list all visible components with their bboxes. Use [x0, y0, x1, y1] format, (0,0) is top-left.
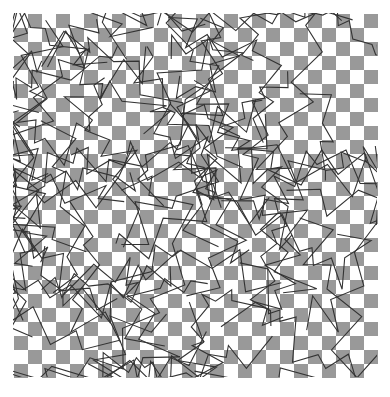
checker-cell — [280, 294, 294, 308]
checker-cell — [56, 266, 70, 280]
checker-cell — [252, 238, 266, 252]
checker-cell — [238, 56, 252, 70]
checker-cell — [266, 336, 280, 350]
checker-cell — [42, 364, 56, 378]
checker-cell — [42, 308, 56, 322]
checker-cell — [84, 14, 98, 28]
checker-cell — [70, 252, 84, 266]
checker-cell — [84, 266, 98, 280]
checker-cell — [154, 28, 168, 42]
checker-cell — [322, 56, 336, 70]
checker-cell — [336, 126, 350, 140]
checker-cell — [294, 364, 308, 378]
checker-cell — [98, 140, 112, 154]
checker-cell — [98, 252, 112, 266]
checker-cell — [336, 70, 350, 84]
checker-cell — [336, 210, 350, 224]
checker-cell — [84, 210, 98, 224]
checker-cell — [182, 56, 196, 70]
checker-cell — [224, 70, 238, 84]
checker-cell — [266, 364, 280, 378]
checker-cell — [224, 182, 238, 196]
checker-cell — [84, 70, 98, 84]
checker-cell — [224, 210, 238, 224]
checker-cell — [210, 308, 224, 322]
checker-cell — [98, 224, 112, 238]
checker-cell — [154, 336, 168, 350]
texture-canvas — [0, 0, 390, 397]
checker-cell — [350, 56, 364, 70]
checker-cell — [294, 112, 308, 126]
checker-cell — [168, 238, 182, 252]
checker-cell — [154, 224, 168, 238]
checker-cell — [168, 182, 182, 196]
checker-cell — [126, 84, 140, 98]
checker-cell — [168, 210, 182, 224]
checker-cell — [154, 252, 168, 266]
checker-cell — [238, 224, 252, 238]
checker-cell — [56, 126, 70, 140]
checker-cell — [168, 322, 182, 336]
checker-cell — [154, 56, 168, 70]
checker-cell — [112, 98, 126, 112]
checker-cell — [28, 350, 42, 364]
checker-cell — [56, 322, 70, 336]
checker-cell — [336, 238, 350, 252]
checker-cell — [364, 266, 378, 280]
checker-cell — [280, 98, 294, 112]
checker-cell — [308, 322, 322, 336]
checker-cell — [294, 336, 308, 350]
checker-cell — [154, 84, 168, 98]
checker-cell — [126, 336, 140, 350]
checker-cell — [252, 70, 266, 84]
checker-cell — [350, 308, 364, 322]
checker-cell — [266, 112, 280, 126]
checker-cell — [364, 294, 378, 308]
checker-cell — [266, 84, 280, 98]
checker-cell — [280, 266, 294, 280]
checker-cell — [182, 252, 196, 266]
checker-cell — [350, 252, 364, 266]
checker-cell — [350, 140, 364, 154]
checker-cell — [98, 112, 112, 126]
checker-cell — [126, 56, 140, 70]
checker-cell — [350, 112, 364, 126]
checker-cell — [56, 14, 70, 28]
checker-cell — [70, 56, 84, 70]
checker-cell — [84, 238, 98, 252]
checker-cell — [224, 266, 238, 280]
checker-cell — [140, 98, 154, 112]
checker-cell — [112, 70, 126, 84]
checker-cell — [196, 70, 210, 84]
checker-cell — [140, 210, 154, 224]
checker-cell — [168, 42, 182, 56]
checker-cell — [280, 42, 294, 56]
checker-cell — [308, 70, 322, 84]
checker-cell — [266, 56, 280, 70]
checker-cell — [182, 336, 196, 350]
checker-cell — [364, 322, 378, 336]
checker-cell — [84, 322, 98, 336]
checker-cell — [350, 224, 364, 238]
checker-cell — [84, 154, 98, 168]
checker-cell — [322, 28, 336, 42]
checker-cell — [364, 98, 378, 112]
checker-cell — [322, 84, 336, 98]
checker-cell — [224, 14, 238, 28]
checker-cell — [196, 322, 210, 336]
checker-cell — [126, 112, 140, 126]
checker-cell — [280, 182, 294, 196]
checker-cell — [350, 84, 364, 98]
checker-cell — [238, 336, 252, 350]
checker-cell — [28, 266, 42, 280]
checker-cell — [364, 70, 378, 84]
checker-cell — [224, 322, 238, 336]
checker-cell — [266, 28, 280, 42]
checker-cell — [308, 266, 322, 280]
checker-cell — [42, 28, 56, 42]
checker-cell — [28, 294, 42, 308]
checker-cell — [98, 28, 112, 42]
checker-cell — [112, 210, 126, 224]
checker-cell — [238, 84, 252, 98]
checker-cell — [294, 224, 308, 238]
